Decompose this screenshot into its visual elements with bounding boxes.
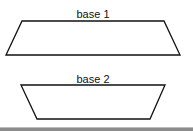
trapezoid-1-shape xyxy=(6,21,180,55)
trapezoid-1-group: base 1 xyxy=(6,8,180,55)
base-1-label: base 1 xyxy=(76,8,109,20)
base-2-label: base 2 xyxy=(76,73,109,85)
diagram-canvas: base 1 base 2 xyxy=(0,0,193,131)
trapezoid-2-shape xyxy=(21,85,165,119)
trapezoid-diagram: base 1 base 2 xyxy=(0,0,193,131)
trapezoid-2-group: base 2 xyxy=(21,73,165,119)
bottom-bar xyxy=(0,127,193,131)
